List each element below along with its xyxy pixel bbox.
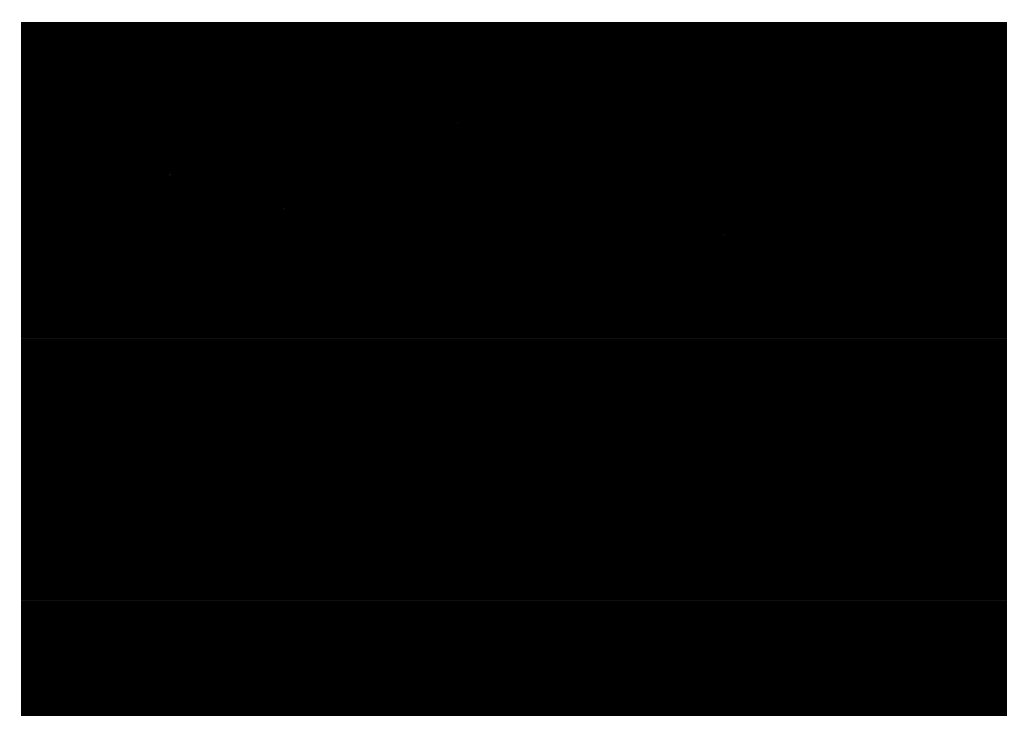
photo-frame — [21, 22, 1007, 716]
page-root — [0, 0, 1028, 736]
moon-photograph — [21, 22, 1007, 716]
